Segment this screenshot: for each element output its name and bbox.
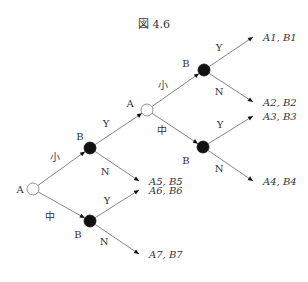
payoff-label: A6, B6 [148, 185, 183, 196]
edge-line [38, 152, 85, 186]
edge-label: N [215, 86, 224, 97]
decision-node-open [27, 183, 39, 195]
edge-label: 中 [157, 124, 167, 136]
edge-line [95, 190, 139, 218]
edge-label: Y [215, 42, 223, 53]
decision-node-open [141, 104, 153, 116]
arrowhead-icon [137, 113, 142, 118]
player-label: B [182, 58, 189, 69]
decision-node-filled [198, 64, 210, 76]
edge-label: Y [103, 195, 111, 206]
edge-label: N [101, 166, 110, 177]
arrowhead-icon [134, 249, 139, 254]
arrowhead-icon [80, 152, 85, 157]
arrowhead-icon [248, 37, 253, 42]
decision-node-filled [84, 215, 96, 227]
arrowhead-icon [194, 73, 199, 78]
edge-label: N [215, 163, 224, 174]
player-label: A [125, 98, 134, 109]
player-label: B [76, 131, 83, 142]
edge-label: Y [102, 118, 110, 129]
game-tree: 小中YNYN小中YNYNABBABBA1, B1A2, B2A3, B3A4, … [0, 0, 308, 282]
arrowhead-icon [248, 97, 253, 102]
arrowhead-icon [193, 139, 198, 144]
payoff-label: A4, B4 [262, 176, 297, 187]
decision-node-filled [197, 141, 209, 153]
arrowhead-icon [248, 116, 253, 121]
payoff-label: A2, B2 [262, 97, 297, 108]
arrowhead-icon [134, 190, 139, 195]
payoff-label: A7, B7 [148, 249, 183, 260]
edge-label: 中 [45, 210, 55, 222]
payoff-label: A1, B1 [262, 32, 297, 43]
arrowhead-icon [134, 176, 139, 181]
edge-label: 小 [158, 80, 168, 91]
edge-label: 小 [50, 152, 60, 163]
edge-line [208, 116, 253, 144]
edge-label: Y [216, 119, 224, 130]
player-label: B [182, 155, 189, 166]
player-label: B [74, 229, 81, 240]
decision-node-filled [84, 142, 96, 154]
game-tree-figure: 図 4.6 小中YNYN小中YNYNABBABBA1, B1A2, B2A3, … [0, 0, 308, 282]
payoff-label: A3, B3 [262, 111, 297, 122]
arrowhead-icon [248, 176, 253, 181]
player-label: A [15, 184, 24, 195]
edge-label: N [100, 236, 109, 247]
